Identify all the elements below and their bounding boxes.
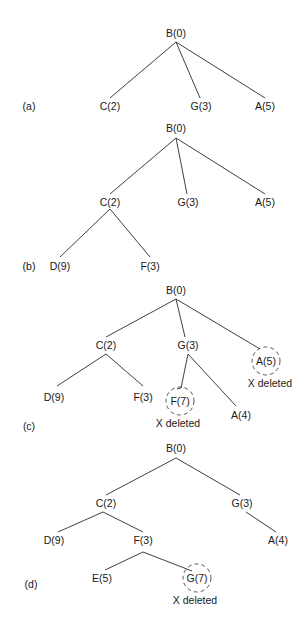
edge-c-G3-A4 [188,354,236,406]
node-c-C2: C(2) [96,339,116,351]
node-b-G3: G(3) [178,196,199,208]
node-d-G3: G(3) [232,497,253,509]
node-c-G3: G(3) [178,339,199,351]
node-c-A4: A(4) [231,409,251,421]
node-b-F3: F(3) [140,260,159,272]
edge-a-B0-C2 [110,42,176,98]
node-d-D9: D(9) [44,534,64,546]
edge-b-B0-G3 [176,138,187,194]
node-c-D9: D(9) [44,391,64,403]
edge-a-B0-A5 [176,42,265,98]
node-c-B0: B(0) [166,284,186,296]
edge-d-B0-G3 [176,458,240,495]
node-a-B0: B(0) [166,27,186,39]
edge-d-F3-G7 [143,552,192,571]
node-d-E5: E(5) [92,572,112,584]
edge-c-C2-D9 [57,354,106,386]
node-b-B0: B(0) [166,122,186,134]
edge-c-C2-F3 [106,354,143,386]
edge-b-B0-C2 [110,138,176,194]
node-c-A5: A(5) [256,355,276,367]
deleted-caption-c-A5: X deleted [248,377,293,389]
edge-d-B0-C2 [106,458,176,495]
edge-d-C2-F3 [103,512,143,532]
panel-label-a: (a) [23,100,36,112]
edge-c-G3-F7 [177,354,188,389]
node-b-C2: C(2) [100,196,120,208]
edge-c-B0-G3 [176,299,185,337]
edge-d-G3-A4 [246,512,276,532]
node-labels: (a)B(0)C(2)G(3)A(5)(b)B(0)C(2)G(3)A(5)D(… [23,27,293,606]
edge-d-C2-D9 [58,512,103,532]
edge-c-B0-C2 [106,299,176,337]
panel-label-c: (c) [23,420,35,432]
node-d-A4: A(4) [268,534,288,546]
edge-b-C2-F3 [110,209,150,257]
node-d-G7: G(7) [187,572,208,584]
node-c-F7: F(7) [170,395,189,407]
edge-b-B0-A5 [176,138,265,194]
edge-d-F3-E5 [105,552,143,570]
node-a-G3: G(3) [191,100,212,112]
node-a-A5: A(5) [255,100,275,112]
node-d-C2: C(2) [96,497,116,509]
panel-label-b: (b) [23,260,36,272]
panel-label-d: (d) [25,578,38,590]
deleted-caption-c-F7: X deleted [156,417,201,429]
node-d-B0: B(0) [166,442,186,454]
node-c-F3: F(3) [133,391,152,403]
search-tree-diagram: (a)B(0)C(2)G(3)A(5)(b)B(0)C(2)G(3)A(5)D(… [0,0,308,634]
node-b-D9: D(9) [50,260,70,272]
deleted-caption-d-G7: X deleted [173,594,218,606]
node-a-C2: C(2) [100,100,120,112]
node-b-A5: A(5) [255,196,275,208]
edge-a-B0-G3 [176,42,200,98]
node-d-F3: F(3) [133,534,152,546]
edge-b-C2-D9 [60,209,110,257]
